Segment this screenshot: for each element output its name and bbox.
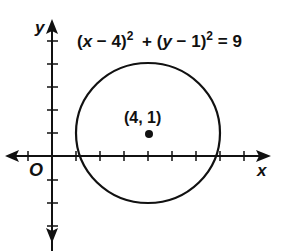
coordinate-plane: y x O (4, 1) (x − 4)2 + (y − 1)2 = 9 <box>0 0 293 251</box>
origin-label: O <box>29 160 43 180</box>
circle-equation: (x − 4)2 + (y − 1)2 = 9 <box>77 29 242 51</box>
equation-equals: = 9 <box>213 32 242 51</box>
equation-plus: + ( <box>137 32 162 51</box>
y-axis <box>46 19 58 251</box>
center-point <box>145 130 153 138</box>
y-axis-label: y <box>34 18 46 37</box>
equation-x-exponent: 2 <box>127 29 134 43</box>
equation-x-term: − 4) <box>92 32 127 51</box>
circle-graph-figure: y x O (4, 1) (x − 4)2 + (y − 1)2 = 9 <box>0 0 293 251</box>
x-axis <box>5 150 271 162</box>
center-point-label: (4, 1) <box>124 109 161 126</box>
x-axis-label: x <box>256 161 268 180</box>
equation-y-term: − 1) <box>172 32 207 51</box>
